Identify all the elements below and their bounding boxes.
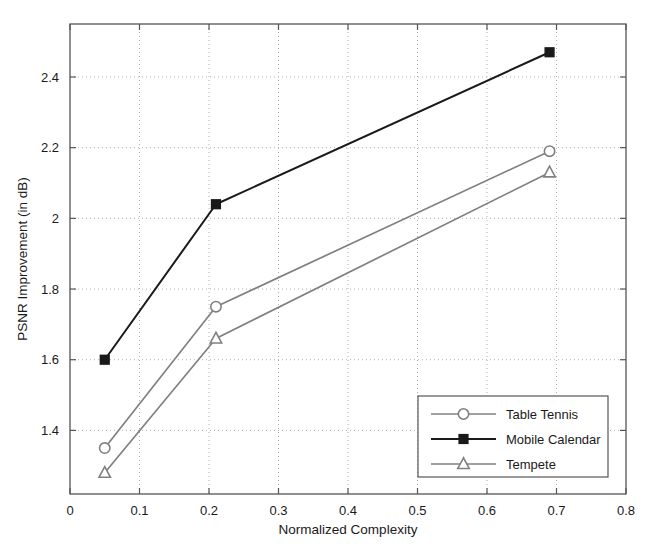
x-tick-label: 0.5	[408, 503, 426, 518]
legend[interactable]: Table TennisMobile CalendarTempete	[418, 396, 608, 477]
figure-canvas: 00.10.20.30.40.50.60.70.81.41.61.822.22.…	[0, 0, 661, 551]
y-tick-label: 1.4	[41, 423, 59, 438]
chart-plot: 00.10.20.30.40.50.60.70.81.41.61.822.22.…	[0, 0, 661, 551]
x-axis-title: Normalized Complexity	[279, 522, 418, 537]
data-point-marker-square	[545, 48, 554, 57]
y-tick-label: 1.6	[41, 352, 59, 367]
data-point-marker-circle	[544, 146, 554, 156]
x-tick-label: 0.6	[478, 503, 496, 518]
x-tick-label: 0.2	[200, 503, 218, 518]
data-point-marker-square	[100, 355, 109, 364]
legend-label[interactable]: Tempete	[506, 457, 556, 472]
data-point-marker-square	[212, 200, 221, 209]
y-tick-label: 2.2	[41, 140, 59, 155]
data-point-marker-circle	[211, 302, 221, 312]
x-tick-label: 0.8	[617, 503, 635, 518]
legend-label[interactable]: Mobile Calendar	[506, 432, 601, 447]
x-tick-label: 0.4	[339, 503, 357, 518]
y-tick-label: 1.8	[41, 282, 59, 297]
y-axis-title: PSNR Improvement (in dB)	[15, 177, 30, 341]
data-point-marker-circle-legend	[458, 409, 468, 419]
x-tick-label: 0.7	[547, 503, 565, 518]
legend-label[interactable]: Table Tennis	[506, 407, 579, 422]
x-tick-label: 0.1	[130, 503, 148, 518]
data-point-marker-circle	[100, 443, 110, 453]
y-tick-label: 2.4	[41, 70, 59, 85]
x-tick-label: 0.3	[269, 503, 287, 518]
data-point-marker-square-legend	[459, 435, 468, 444]
y-tick-label: 2	[52, 211, 59, 226]
x-tick-label: 0	[66, 503, 73, 518]
